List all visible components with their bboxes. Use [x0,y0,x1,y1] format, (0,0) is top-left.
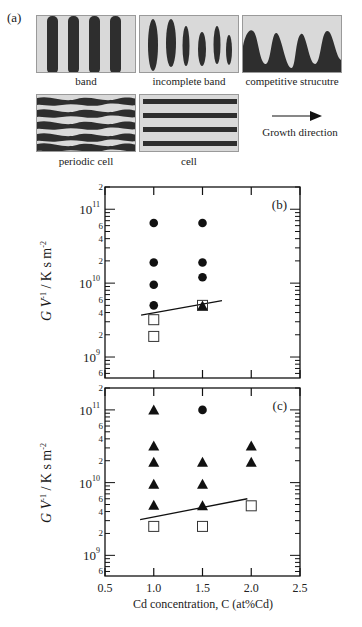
y-minor-label: 4 [99,507,104,517]
x-tick-label: 1.0 [146,581,161,595]
x-tick-label: 1.5 [195,581,210,595]
ylabel-units-sup: -2 [39,241,48,248]
y-decade-label: 1011 [79,401,100,418]
ylabel-sup: -1 [39,494,48,501]
ylabel-units-sup: -2 [39,443,48,450]
panel-label: (c) [273,398,287,413]
y-minor-label: 2 [99,528,104,538]
x-tick-label: 2.5 [293,581,308,595]
x-axis-label: Cd concentration, C (at%Cd) [105,597,301,612]
data-point-square [198,521,208,531]
y-minor-label: 6 [99,494,104,504]
y-decade-label: 1010 [79,474,100,491]
data-point-triangle [246,440,257,450]
x-tick-label: 2.0 [244,581,259,595]
ylabel-units: / K s m [39,450,54,494]
x-tick-label: 0.5 [98,581,113,595]
y-minor-label: 6 [99,421,104,431]
data-point-square [149,521,159,531]
data-point-triangle [148,500,159,510]
ylabel-text: G V [39,299,54,321]
data-point-square [246,501,256,511]
data-point-triangle [246,457,257,467]
data-point-circle [198,406,207,415]
data-point-triangle [197,457,208,467]
data-point-triangle [148,479,159,489]
y-axis-label-b: G V-1 / K s m-2 [39,241,56,321]
y-minor-label: 6 [99,566,104,576]
data-point-triangle [148,440,159,450]
ylabel-text: G V [39,501,54,523]
data-point-triangle [197,500,208,510]
y-minor-label: 2 [99,383,104,393]
ylabel-sup: -1 [39,292,48,299]
y-axis-label-c: G V-1 / K s m-2 [39,443,56,523]
y-decade-label: 109 [83,546,100,563]
data-point-triangle [148,457,159,467]
data-point-triangle [148,404,159,414]
y-minor-label: 4 [99,434,104,444]
ylabel-units: / K s m [39,248,54,292]
y-minor-label: 2 [99,456,104,466]
data-point-triangle [197,479,208,489]
